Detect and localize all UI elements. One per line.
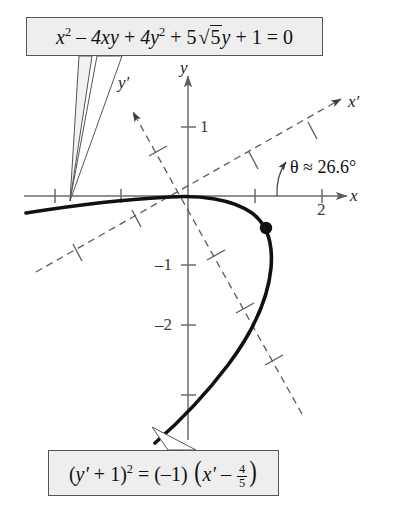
eq-bot-equals: =	[138, 463, 149, 485]
y-prime-axis-label: y′	[118, 73, 129, 93]
eq-top-plus-2: +	[170, 26, 181, 48]
y-tick-label-minus-2: –2	[155, 315, 172, 335]
eq-top-plus-1: +	[124, 26, 135, 48]
eq-bot-close: )	[120, 463, 127, 485]
eq-bot-xprime: x′	[203, 463, 216, 485]
figure-canvas: x2 – 4xy + 4y2 + 5√5y + 1 = 0 (y′ + 1)2 …	[0, 0, 401, 516]
eq-bot-minus: –	[221, 463, 231, 485]
eq-bot-fraction: 45	[237, 463, 247, 490]
eq-top-equals: =	[267, 26, 278, 48]
eq-bot-big-open-paren: (	[194, 456, 202, 486]
eq-bot-plus: +	[94, 463, 105, 485]
eq-top-radical-group: √5	[197, 27, 222, 47]
eq-top-minus: –	[76, 26, 86, 48]
y-prime-tick-4	[265, 355, 283, 365]
top-equation-callout: x2 – 4xy + 4y2 + 5√5y + 1 = 0	[26, 17, 323, 56]
eq-top-exp-a: 2	[65, 25, 71, 39]
eq-top-five: 5	[187, 26, 197, 48]
x-axis-label: x	[350, 186, 358, 206]
parabola-curve	[26, 197, 271, 443]
x-tick-label-2: 2	[317, 200, 326, 220]
eq-top-y-after-rad: y	[222, 26, 231, 48]
eq-bot-big-close-paren: )	[249, 456, 257, 486]
y-prime-tick-1	[149, 146, 167, 156]
eq-bot-one: 1	[110, 463, 120, 485]
angle-indicator	[277, 162, 286, 196]
top-callout-leader	[70, 56, 122, 201]
bottom-equation-callout: (y′ + 1)2 = (–1) (x′ – 45)	[48, 450, 279, 496]
eq-bot-factor: (–1)	[154, 463, 187, 485]
eq-bot-frac-num: 4	[237, 463, 247, 476]
eq-top-zero: 0	[283, 26, 293, 48]
sqrt-icon: √	[199, 26, 210, 48]
eq-bot-open: (	[69, 463, 76, 485]
y-prime-tick-2	[207, 250, 225, 260]
x-prime-axis-label: x′	[348, 92, 359, 112]
eq-top-one: 1	[252, 26, 262, 48]
bottom-equation-text: (y′ + 1)2 = (–1) (x′ – 45)	[69, 456, 258, 490]
eq-top-radicand: 5	[210, 25, 222, 48]
original-axes	[24, 76, 347, 440]
top-equation-text: x2 – 4xy + 4y2 + 5√5y + 1 = 0	[56, 26, 293, 47]
x-prime-tick-3	[249, 152, 258, 169]
y-axis-label: y	[180, 58, 188, 78]
eq-top-x: x	[56, 26, 65, 48]
eq-bot-yprime: y′	[76, 463, 89, 485]
eq-top-exp-b: 2	[159, 25, 165, 39]
y-tick-label-1: 1	[200, 117, 209, 137]
x-prime-tick-2	[132, 210, 141, 227]
eq-top-plus-3: +	[235, 26, 246, 48]
x-prime-tick-4	[308, 122, 317, 139]
angle-label: θ ≈ 26.6°	[290, 157, 356, 178]
eq-top-4y: 4y	[140, 26, 159, 48]
y-prime-tick-3	[236, 303, 254, 313]
parabola-vertex-dot	[260, 222, 272, 234]
eq-top-4xy: 4xy	[91, 26, 119, 48]
y-tick-label-minus-1: –1	[155, 255, 172, 275]
eq-bot-exp: 2	[127, 462, 133, 476]
eq-bot-frac-den: 5	[237, 476, 247, 490]
diagram-svg	[0, 0, 401, 516]
